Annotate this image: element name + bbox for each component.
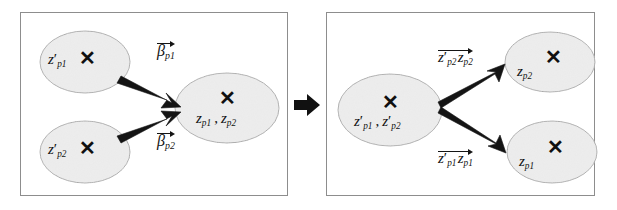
edge-label-beta-p2: βp2 [157, 131, 175, 151]
x-marker: ✕ [219, 88, 236, 108]
edge-label-zp2prime-zp2: z′p2 zp2 [438, 48, 473, 67]
split-panel [326, 12, 595, 196]
figure-container: ✕ ✕ ✕ z′p1 z′p2 zp1 , zp2 βp1 βp2 ✕ ✕ ✕ … [0, 0, 617, 210]
x-marker: ✕ [79, 138, 96, 158]
edge-label-zp1prime-zp1: z′p1 zp1 [438, 149, 473, 168]
node-label-merged: zp1 , zp2 [196, 111, 236, 128]
node-label-merged-prime: z′p1 , z′p2 [354, 114, 401, 131]
x-marker: ✕ [382, 92, 399, 112]
node-label-zp1: zp1 [519, 154, 534, 171]
right-arrow-icon [294, 94, 320, 116]
node-label-zp1-prime: z′p1 [48, 52, 66, 69]
x-marker: ✕ [79, 48, 96, 68]
x-marker: ✕ [545, 47, 562, 67]
node-label-zp2: zp2 [517, 64, 532, 81]
merge-panel [20, 12, 288, 196]
edge-label-beta-p1: βp1 [157, 41, 175, 61]
x-marker: ✕ [547, 137, 564, 157]
node-label-zp2-prime: z′p2 [48, 142, 66, 159]
